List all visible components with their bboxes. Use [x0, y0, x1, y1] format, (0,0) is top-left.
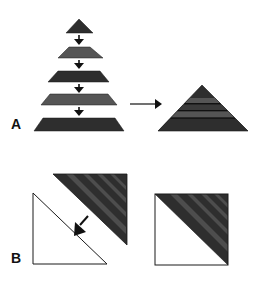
assembled-square	[150, 126, 232, 270]
panel-a	[34, 19, 255, 135]
slice-5-trapezoid	[34, 118, 124, 131]
diagram-figure: A B	[0, 0, 260, 281]
panel-label-b: B	[11, 251, 21, 265]
assembled-striped-triangle	[150, 80, 255, 135]
slice-3-trapezoid	[48, 71, 109, 82]
diagram-canvas	[0, 0, 260, 281]
slice-2-trapezoid	[58, 47, 103, 58]
down-arrow-icon	[74, 35, 84, 45]
slice-4-trapezoid	[41, 94, 117, 105]
down-arrow-icon	[74, 84, 84, 93]
down-left-arrow-icon	[74, 216, 88, 236]
down-arrow-icon	[74, 60, 84, 69]
down-arrow-icon	[74, 107, 84, 116]
right-arrow-icon	[130, 99, 162, 109]
slice-1-triangle	[66, 19, 93, 33]
panel-label-a: A	[11, 117, 21, 131]
